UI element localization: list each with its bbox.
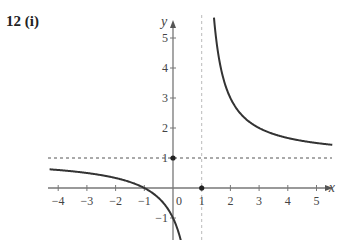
marked-point: [170, 155, 175, 160]
y-tick-label: 2: [162, 121, 168, 135]
marked-point: [199, 185, 204, 190]
x-tick-label: 3: [256, 194, 262, 208]
y-axis-label: y: [159, 14, 168, 29]
x-tick-label: −1: [138, 194, 151, 208]
y-tick-label: 4: [162, 61, 168, 75]
x-tick-label: −2: [109, 194, 122, 208]
y-axis-arrow-icon: [170, 20, 176, 28]
graph: −4−3−2−1012345−112345xy: [0, 0, 339, 240]
y-tick-label: −1: [155, 211, 168, 225]
x-axis-label: x: [328, 180, 336, 195]
y-tick-label: 5: [162, 31, 168, 45]
x-tick-label: −4: [52, 194, 65, 208]
x-tick-label: 0: [176, 194, 182, 208]
x-tick-label: −3: [81, 194, 94, 208]
y-tick-label: 3: [162, 91, 168, 105]
x-tick-label: 2: [227, 194, 233, 208]
y-tick-label: 1: [162, 151, 168, 165]
x-tick-label: 4: [285, 194, 291, 208]
x-tick-label: 5: [314, 194, 320, 208]
curve-right-branch: [214, 18, 332, 145]
x-tick-label: 1: [199, 194, 205, 208]
